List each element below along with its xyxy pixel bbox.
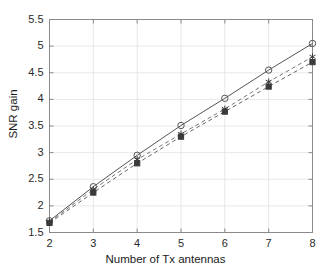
x-axis-label: Number of Tx antennas xyxy=(0,253,331,265)
x-tick-label: 7 xyxy=(259,237,279,249)
chart-plot-area xyxy=(0,0,331,276)
y-tick-label: 5.5 xyxy=(14,13,44,25)
y-axis-label: SNR gain xyxy=(7,54,19,174)
y-tick-label: 2 xyxy=(14,199,44,211)
x-tick-label: 8 xyxy=(303,237,323,249)
x-tick-label: 2 xyxy=(40,237,60,249)
y-tick-label: 5 xyxy=(14,39,44,51)
x-tick-label: 5 xyxy=(171,237,191,249)
x-tick-label: 6 xyxy=(215,237,235,249)
x-tick-label: 4 xyxy=(127,237,147,249)
y-tick-label: 2.5 xyxy=(14,172,44,184)
figure-canvas: 1.522.533.544.555.5 2345678 Number of Tx… xyxy=(0,0,331,276)
x-tick-label: 3 xyxy=(83,237,103,249)
